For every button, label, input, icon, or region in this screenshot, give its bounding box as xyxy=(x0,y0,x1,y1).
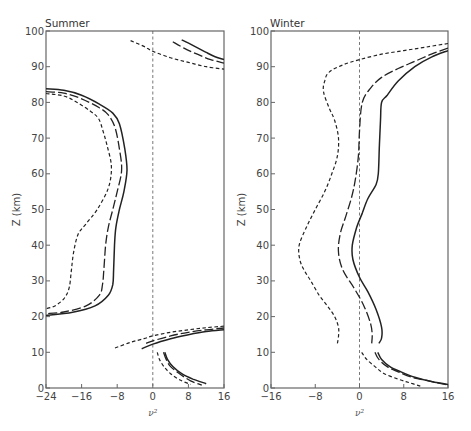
y-tick-label: 60 xyxy=(31,168,44,179)
solid-curve xyxy=(378,352,448,384)
y-tick-label: 10 xyxy=(256,347,269,358)
long-dashed-curve xyxy=(375,352,448,385)
solid-curve xyxy=(352,51,448,344)
x-tick-label: −8 xyxy=(110,391,125,402)
y-tick-label: 80 xyxy=(31,97,44,108)
chart-figure: 0102030405060708090100−24−16−80816Summer… xyxy=(0,0,471,431)
y-tick-label: 100 xyxy=(25,26,44,37)
y-tick-label: 80 xyxy=(256,97,269,108)
x-tick-label: −8 xyxy=(308,391,323,402)
y-tick-label: 90 xyxy=(31,61,44,72)
long-dashed-curve xyxy=(338,48,448,343)
panel-title: Winter xyxy=(270,17,305,29)
y-tick-label: 10 xyxy=(31,347,44,358)
x-tick-label: −16 xyxy=(260,391,281,402)
short-dashed-curve xyxy=(299,44,448,344)
y-tick-label: 70 xyxy=(256,133,269,144)
y-tick-label: 30 xyxy=(31,275,44,286)
x-tick-label: 0 xyxy=(150,391,156,402)
summer-panel: 0102030405060708090100−24−16−80816Summer… xyxy=(11,17,230,418)
x-axis-label: ν² xyxy=(355,408,364,418)
short-dashed-curve xyxy=(362,352,421,386)
x-axis-label: ν² xyxy=(148,408,157,418)
series-group xyxy=(46,40,224,385)
long-dashed-curve xyxy=(46,92,122,314)
y-tick-label: 40 xyxy=(31,240,44,251)
y-tick-label: 100 xyxy=(250,26,269,37)
y-tick-label: 50 xyxy=(31,204,44,215)
winter-panel: 0102030405060708090100−16−80816Winterν²Z… xyxy=(236,17,454,418)
short-dashed-curve xyxy=(46,94,111,309)
y-axis-label: Z (km) xyxy=(236,193,247,226)
y-tick-label: 60 xyxy=(256,168,269,179)
x-tick-label: −16 xyxy=(71,391,92,402)
y-tick-label: 40 xyxy=(256,240,269,251)
y-tick-label: 20 xyxy=(256,311,269,322)
y-tick-label: 70 xyxy=(31,133,44,144)
y-axis-label: Z (km) xyxy=(11,193,22,226)
x-tick-label: 16 xyxy=(442,391,455,402)
series-group xyxy=(299,44,448,387)
y-tick-label: 20 xyxy=(31,311,44,322)
x-tick-label: 8 xyxy=(185,391,191,402)
y-tick-label: 30 xyxy=(256,275,269,286)
y-tick-label: 90 xyxy=(256,61,269,72)
x-tick-label: 0 xyxy=(356,391,362,402)
x-tick-label: −24 xyxy=(35,391,56,402)
solid-curve xyxy=(165,352,206,383)
y-tick-label: 50 xyxy=(256,204,269,215)
plot-frame xyxy=(46,31,224,388)
x-tick-label: 8 xyxy=(401,391,407,402)
x-tick-label: 16 xyxy=(218,391,231,402)
panel-title: Summer xyxy=(45,17,90,29)
long-dashed-curve xyxy=(173,42,224,63)
